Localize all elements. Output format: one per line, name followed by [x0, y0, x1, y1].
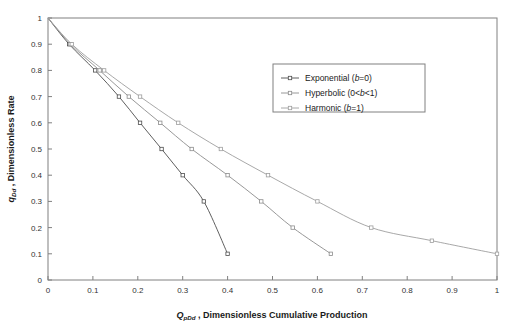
- series-0: [48, 18, 229, 256]
- data-point-marker: [430, 239, 433, 242]
- data-point-marker: [70, 43, 73, 46]
- legend-label-0: Exponential (b=0): [305, 73, 372, 83]
- y-tick-label: 0.8: [31, 66, 43, 75]
- x-tick-label: 0.4: [222, 286, 234, 295]
- data-point-marker: [329, 252, 332, 255]
- x-tick-label: 1: [495, 286, 500, 295]
- x-tick-label: 0.2: [132, 286, 144, 295]
- data-point-marker: [138, 95, 141, 98]
- x-tick-label: 0.8: [402, 286, 414, 295]
- x-tick-label: 0.5: [267, 286, 279, 295]
- x-axis-symbol: Q: [176, 310, 183, 320]
- y-tick-label: 0.3: [31, 197, 43, 206]
- x-tick-label: 0.3: [177, 286, 189, 295]
- data-point-marker: [98, 69, 101, 72]
- figure-container: 00.10.20.30.40.50.60.70.80.91 00.10.20.3…: [0, 0, 516, 329]
- y-axis-symbol-sub: Dd: [10, 188, 17, 196]
- x-axis-ticks: [48, 276, 497, 280]
- data-point-marker: [202, 200, 205, 203]
- x-tick-label: 0.9: [447, 286, 459, 295]
- legend-label-2: Harmonic (b=1): [305, 103, 364, 113]
- decline-curve-chart: 00.10.20.30.40.50.60.70.80.91 00.10.20.3…: [0, 0, 516, 329]
- y-axis-tick-labels: 00.10.20.30.40.50.60.70.80.91: [31, 14, 43, 285]
- y-tick-label: 0.5: [31, 145, 43, 154]
- data-point-marker: [102, 69, 105, 72]
- x-tick-label: 0.7: [357, 286, 369, 295]
- x-tick-label: 0.6: [312, 286, 324, 295]
- data-point-marker: [93, 69, 96, 72]
- y-tick-label: 1: [38, 14, 43, 23]
- data-point-marker: [260, 200, 263, 203]
- legend-marker-1: [288, 91, 291, 94]
- y-tick-label: 0.9: [31, 40, 43, 49]
- data-point-marker: [160, 147, 163, 150]
- data-point-marker: [219, 147, 222, 150]
- x-axis-title: QpDd , Dimensionless Cumulative Producti…: [176, 310, 367, 321]
- series-line: [48, 18, 331, 254]
- legend-marker-2: [288, 106, 291, 109]
- chart-legend: Exponential (b=0)Hyperbolic (0<b<1)Harmo…: [273, 64, 425, 113]
- y-axis-title: qDd , Dimensionless Rate: [6, 96, 17, 203]
- y-tick-label: 0: [38, 276, 43, 285]
- y-axis-title-text: , Dimensionless Rate: [6, 96, 16, 189]
- data-point-marker: [181, 174, 184, 177]
- x-axis-tick-labels: 00.10.20.30.40.50.60.70.80.91: [46, 286, 500, 295]
- data-point-marker: [495, 252, 498, 255]
- series-2: [48, 18, 499, 256]
- data-point-marker: [159, 121, 162, 124]
- y-tick-label: 0.1: [31, 250, 43, 259]
- x-tick-label: 0: [46, 286, 51, 295]
- series-line: [48, 18, 228, 254]
- data-point-marker: [226, 252, 229, 255]
- data-point-marker: [127, 95, 130, 98]
- series-line: [48, 18, 497, 254]
- legend-marker-0: [288, 76, 291, 79]
- data-point-marker: [316, 200, 319, 203]
- legend-label-1: Hyperbolic (0<b<1): [305, 88, 377, 98]
- series-layer: [48, 18, 499, 256]
- data-point-marker: [117, 95, 120, 98]
- data-point-marker: [266, 174, 269, 177]
- data-point-marker: [370, 226, 373, 229]
- y-axis-ticks: [48, 18, 52, 280]
- data-point-marker: [177, 121, 180, 124]
- data-point-marker: [226, 174, 229, 177]
- y-tick-label: 0.6: [31, 119, 43, 128]
- x-tick-label: 0.1: [87, 286, 99, 295]
- data-point-marker: [138, 121, 141, 124]
- y-tick-label: 0.4: [31, 171, 43, 180]
- x-axis-title-text: , Dimensionless Cumulative Production: [196, 310, 368, 320]
- data-point-marker: [291, 226, 294, 229]
- series-1: [48, 18, 333, 256]
- y-tick-label: 0.7: [31, 93, 43, 102]
- x-axis-symbol-sub: pDd: [182, 314, 195, 321]
- data-point-marker: [190, 147, 193, 150]
- y-tick-label: 0.2: [31, 224, 43, 233]
